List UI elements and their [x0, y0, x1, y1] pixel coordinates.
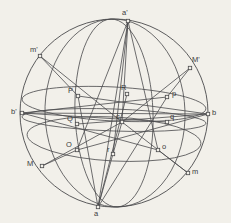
point-marker-q [165, 120, 168, 123]
point-label-O: O [66, 141, 72, 149]
point-label-b: b [212, 109, 216, 117]
point-marker-b-prime [20, 111, 23, 114]
chord-a-to-P [78, 96, 98, 207]
point-marker-O [75, 148, 78, 151]
caption-strip [0, 214, 231, 223]
point-marker-R [125, 92, 128, 95]
point-label-r: r [107, 146, 110, 154]
point-label-m: m [192, 168, 198, 176]
chord-a-to-R [98, 94, 127, 207]
point-label-a-prime: a' [122, 9, 128, 17]
chord-M-prime-to-p [167, 68, 190, 97]
point-marker-r [111, 152, 114, 155]
chord-m-to-c [122, 122, 188, 173]
chord-a-prime-to-o [128, 21, 158, 150]
point-label-Q: Q [67, 115, 73, 123]
point-marker-p [165, 95, 168, 98]
point-label-o: o [162, 143, 166, 151]
point-label-m-prime: m' [30, 46, 38, 54]
point-marker-M-prime [188, 66, 191, 69]
chord-b-prime-to-q [22, 113, 167, 122]
point-marker-P [76, 94, 79, 97]
point-label-M: M [27, 160, 33, 168]
point-label-M-prime: M' [192, 56, 200, 64]
great-circle-equator-upper [21, 82, 207, 126]
point-marker-m-prime [38, 54, 41, 57]
point-label-c: c [116, 113, 120, 121]
point-label-b-prime: b' [11, 108, 17, 116]
chord-M-to-O [42, 150, 77, 166]
chord-lines-group [22, 21, 208, 207]
point-label-p: p [172, 90, 176, 98]
sphere-figure: a'ab'bcm'M'MmPQORrpqo [0, 0, 231, 223]
point-marker-M [40, 164, 43, 167]
chord-b-prime-to-b [22, 113, 208, 114]
point-label-q: q [170, 113, 174, 121]
point-marker-o [156, 148, 159, 151]
great-circle-equator-lower [26, 112, 202, 165]
point-marker-Q [75, 122, 78, 125]
point-label-R: R [121, 84, 126, 92]
point-marker-a-prime [126, 19, 129, 22]
point-marker-m [186, 171, 189, 174]
chord-a-prime-to-a [98, 21, 128, 207]
point-marker-b [206, 112, 209, 115]
chord-a-prime-to-c [122, 21, 128, 122]
point-marker-c [120, 120, 123, 123]
point-label-P: P [68, 87, 73, 95]
